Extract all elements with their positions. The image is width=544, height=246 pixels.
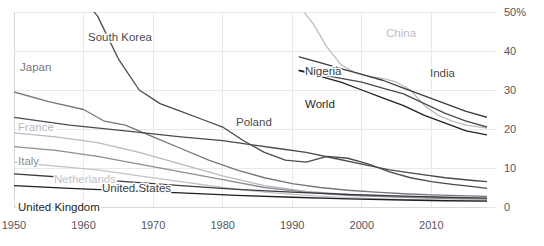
y-axis-tick-labels: 01020304050%	[487, 6, 526, 213]
chart-container: 01020304050% 195019601970198019902000201…	[0, 0, 544, 246]
x-tick-label: 1980	[210, 219, 234, 231]
series-label-nigeria: Nigeria	[305, 65, 342, 77]
y-tick-label: 0	[504, 201, 510, 213]
y-tick-label: 40	[504, 45, 516, 57]
y-tick-label: 50%	[504, 6, 526, 18]
series-label-italy: Italy	[18, 155, 39, 167]
series-label-world: World	[305, 98, 335, 110]
x-tick-label: 1950	[2, 219, 26, 231]
x-tick-label: 1960	[71, 219, 95, 231]
y-tick-label: 30	[504, 84, 516, 96]
series-label-japan: Japan	[20, 61, 51, 73]
x-tick-label: 1990	[280, 219, 304, 231]
series-label-south-korea: South Korea	[88, 31, 153, 43]
y-tick-label: 20	[504, 123, 516, 135]
series-label-france: France	[18, 121, 54, 133]
y-tick-label: 10	[504, 162, 516, 174]
x-axis-tick-labels: 1950196019701980199020002010	[2, 219, 444, 231]
series-label-india: India	[430, 67, 456, 79]
series-line-united-kingdom	[14, 186, 487, 202]
x-tick-label: 2000	[350, 219, 374, 231]
x-tick-label: 2010	[419, 219, 443, 231]
line-chart: 01020304050% 195019601970198019902000201…	[0, 0, 544, 246]
series-label-poland: Poland	[236, 116, 272, 128]
series-label-united-states: United States	[102, 182, 171, 194]
series-label-china: China	[386, 27, 417, 39]
series-label-united-kingdom: United Kingdom	[18, 201, 100, 213]
x-tick-label: 1970	[141, 219, 165, 231]
